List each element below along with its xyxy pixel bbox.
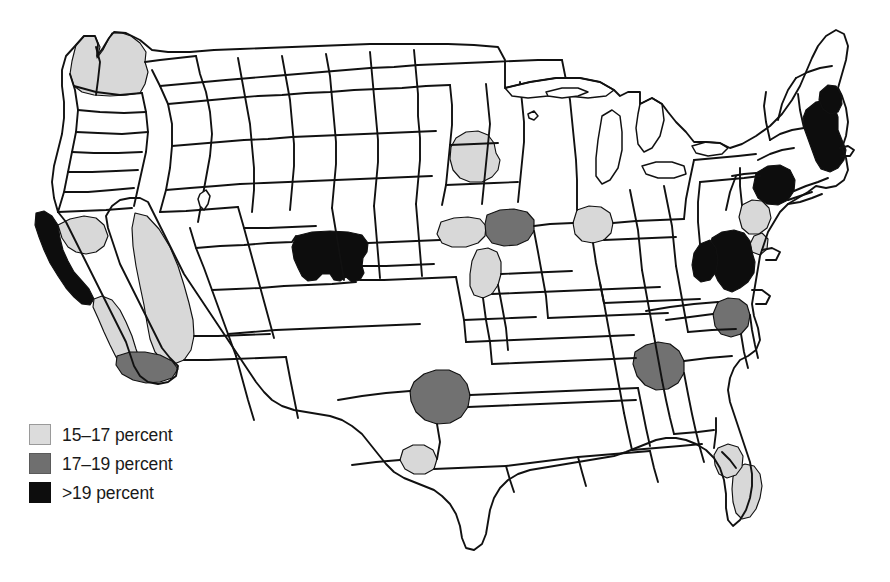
region-des-moines <box>485 209 534 246</box>
region-northeastern-pa <box>739 200 771 234</box>
region-denver <box>292 231 368 282</box>
legend-swatch-mid <box>29 453 51 474</box>
region-delmarva-light <box>750 233 768 255</box>
map-legend: 15–17 percent 17–19 percent >19 percent <box>29 421 259 508</box>
region-minneapolis <box>450 131 500 182</box>
great-lakes <box>505 78 728 184</box>
region-richmond <box>713 298 750 337</box>
legend-label-low: 15–17 percent <box>62 425 173 445</box>
legend-label-high: >19 percent <box>62 483 154 503</box>
legend-swatch-high <box>29 482 51 503</box>
region-seattle-spokane <box>70 33 148 96</box>
legend-label-mid: 17–19 percent <box>62 454 173 474</box>
region-washington-dc <box>692 240 718 282</box>
figure-canvas: 15–17 percent 17–19 percent >19 percent <box>0 0 890 582</box>
region-missouri-light <box>470 248 501 298</box>
legend-item-high: >19 percent <box>29 479 259 506</box>
legend-item-mid: 17–19 percent <box>29 450 259 477</box>
region-dallas <box>410 370 470 424</box>
legend-item-low: 15–17 percent <box>29 421 259 448</box>
region-boston <box>803 100 846 172</box>
region-austin <box>400 445 437 474</box>
region-nevada-arizona-wedge <box>132 213 194 364</box>
legend-swatch-low <box>29 424 51 445</box>
region-chicago <box>573 206 613 243</box>
region-eastern-iowa <box>437 217 486 247</box>
